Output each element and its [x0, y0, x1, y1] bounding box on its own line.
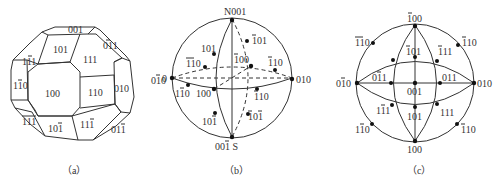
face-label: 100 — [45, 88, 60, 99]
face-label: 111 — [22, 56, 36, 67]
pole-label-north: N001 — [224, 6, 246, 17]
face-label: 010 — [114, 83, 129, 94]
face-label: 001 — [68, 24, 83, 35]
pole-label: 101 — [252, 35, 267, 46]
pole-label-right: 010 — [296, 74, 311, 85]
pole-label: 101 — [248, 111, 263, 122]
face-label: 111 — [80, 119, 94, 130]
face-label: 111 — [22, 116, 36, 127]
panel-c-stereogram — [355, 24, 476, 143]
pole-label: 110 — [461, 124, 476, 135]
pole-label: 101 — [202, 116, 217, 127]
face-label: 101 — [53, 44, 68, 55]
pole-label: 101 — [407, 111, 422, 122]
caption-b: （b） — [224, 165, 249, 176]
face-label: 011 — [111, 124, 126, 135]
face-label: 101 — [48, 123, 63, 134]
panel-b-labels: N001 101 101 110 100 110 0 010 110 100 1… — [162, 6, 311, 176]
pole-label: 110 — [268, 57, 283, 68]
panel-c-labels: 100 110 110 101 111 010 010 011 011 001 … — [336, 13, 492, 176]
pole-label: 100 — [234, 54, 249, 65]
pole-label-south: 001 S — [215, 141, 238, 152]
caption-a: （a） — [62, 165, 86, 176]
pole-label: 111 — [376, 105, 390, 116]
pole-label: 101 — [201, 43, 216, 54]
caption-c: （c） — [407, 165, 431, 176]
pole-label: 011 — [442, 72, 457, 83]
pole-label: 011 — [372, 72, 387, 83]
face-label: 011 — [103, 40, 118, 51]
pole-label-right: 010 — [477, 78, 492, 89]
panel-a-labels: 001 101 111 011 111 110 100 110 010 111 … — [13, 24, 166, 176]
pole-label-center: 001 — [407, 86, 422, 97]
pole-label: 110 — [355, 124, 370, 135]
pole-label-bottom: 100 — [407, 144, 422, 155]
pole-label: 110 — [355, 37, 370, 48]
face-label: 110 — [13, 80, 28, 91]
pole-label: 110 — [254, 91, 269, 102]
crystal-figure: 001 101 111 011 111 110 100 110 010 111 … — [0, 0, 501, 183]
pole-label: 111 — [438, 46, 452, 57]
pole-label: 101 — [406, 46, 421, 57]
pole-label: 110 — [462, 37, 477, 48]
panel-b-sphere — [170, 18, 294, 139]
face-label: 111 — [83, 54, 97, 65]
pole-label-left: 0 — [162, 73, 167, 84]
pole-label-top: 100 — [407, 13, 422, 24]
pole-label: 111 — [440, 107, 454, 118]
pole-label: 110 — [175, 88, 190, 99]
pole-label-left: 010 — [336, 78, 351, 89]
pole-label: 110 — [186, 58, 201, 69]
pole-label: 100 — [196, 88, 211, 99]
face-label: 110 — [88, 87, 103, 98]
